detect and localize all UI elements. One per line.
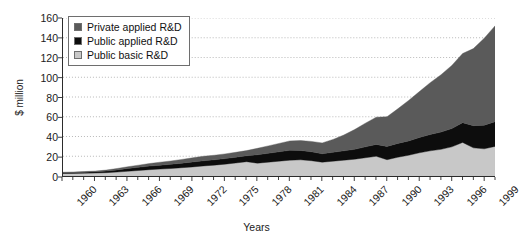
x-tick-label: 1984 bbox=[334, 183, 359, 208]
x-tick-label: 1960 bbox=[74, 183, 99, 208]
x-tick-label: 1981 bbox=[301, 183, 326, 208]
legend-swatch-private-applied bbox=[74, 23, 82, 31]
x-tick-label: 1993 bbox=[431, 183, 456, 208]
legend-swatch-public-basic bbox=[74, 51, 82, 59]
x-tick-label: 1963 bbox=[106, 183, 131, 208]
chart-legend: Private applied R&DPublic applied R&DPub… bbox=[68, 16, 190, 66]
x-tick-label: 1969 bbox=[171, 183, 196, 208]
x-tick-label: 1990 bbox=[399, 183, 424, 208]
x-tick-label: 1996 bbox=[464, 183, 489, 208]
legend-label: Private applied R&D bbox=[87, 22, 182, 33]
x-axis-title: Years bbox=[0, 221, 513, 233]
legend-item: Public applied R&D bbox=[74, 34, 182, 48]
legend-label: Public applied R&D bbox=[87, 36, 177, 47]
x-tick-label: 1999 bbox=[496, 183, 521, 208]
x-tick-label: 1966 bbox=[139, 183, 164, 208]
legend-item: Public basic R&D bbox=[74, 48, 182, 62]
x-tick-label: 1975 bbox=[236, 183, 261, 208]
legend-swatch-public-applied bbox=[74, 37, 82, 45]
x-tick-label: 1987 bbox=[366, 183, 391, 208]
x-tick-label: 1972 bbox=[204, 183, 229, 208]
legend-item: Private applied R&D bbox=[74, 20, 182, 34]
legend-label: Public basic R&D bbox=[87, 50, 168, 61]
x-tick-label: 1978 bbox=[269, 183, 294, 208]
